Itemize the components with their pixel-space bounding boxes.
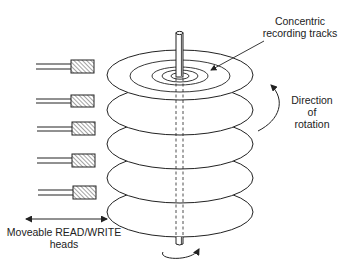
head-2 bbox=[36, 95, 94, 107]
head-1 bbox=[36, 60, 94, 73]
head-3 bbox=[37, 122, 95, 135]
rotation-direction-arrow bbox=[258, 85, 279, 131]
spindle-top bbox=[176, 31, 183, 77]
heads-label: Moveable READ/WRITE heads bbox=[4, 226, 124, 250]
head-4 bbox=[37, 154, 95, 167]
spindle-bottom bbox=[176, 237, 183, 245]
spindle-rotation-arrow bbox=[163, 249, 199, 258]
tracks-label: Concentric recording tracks bbox=[254, 15, 346, 39]
rotation-label: Direction of rotation bbox=[282, 94, 342, 130]
read-write-heads bbox=[36, 60, 96, 199]
disk-diagram: Concentric recording tracks Direction of… bbox=[0, 0, 350, 272]
head-5 bbox=[38, 186, 96, 199]
platter-stack bbox=[107, 50, 253, 237]
